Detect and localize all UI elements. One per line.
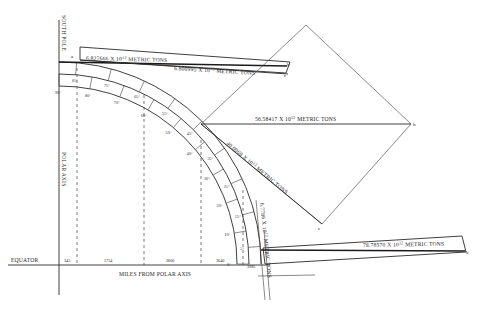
earth-forces-diagram: SOUTH POLE POLAR AXIS EQUATOR MILES FROM… — [0, 0, 480, 315]
latitude-radial-5 — [248, 246, 260, 247]
latitude-label-85: 85° — [72, 78, 78, 83]
latitude-radial-70 — [120, 86, 124, 97]
latitude-labels: 85°75°65°55°45°35°25°15°5°90°80°70°60°50… — [55, 78, 244, 267]
latitude-radial-45 — [193, 121, 201, 129]
latitude-radial-80 — [90, 77, 92, 89]
latitude-radial-10 — [234, 231, 246, 233]
latitude-radial-20 — [226, 199, 237, 203]
latitude-label-90: 90° — [55, 90, 61, 95]
latitude-label-5: 5° — [240, 246, 244, 251]
polar-axis-label: POLAR AXIS — [61, 152, 67, 186]
force-line-f6 — [261, 250, 465, 251]
latitude-radial-50 — [173, 119, 181, 128]
latitude-label-80: 80° — [85, 93, 91, 98]
latitude-radial-35 — [215, 148, 225, 155]
point-label-b-bottom: b — [466, 250, 469, 255]
point-label-c-mid: c — [318, 226, 321, 231]
equator-label: EQUATOR — [11, 257, 38, 263]
force-label-f4: 40.0068 X 1012 METRIC TONS — [225, 139, 290, 195]
south-pole-label: SOUTH POLE — [61, 15, 67, 51]
latitude-label-20: 20° — [217, 203, 223, 208]
latitude-label-10: 10° — [224, 232, 230, 237]
latitude-label-45: 45° — [187, 131, 193, 136]
latitude-label-55: 55° — [162, 111, 168, 116]
latitude-label-70: 70° — [114, 100, 120, 105]
equator-extension-line — [258, 275, 315, 276]
point-label-b-mid: b — [413, 122, 416, 127]
latitude-label-50: 50° — [166, 130, 172, 135]
latitude-label-25: 25° — [224, 184, 230, 189]
inner-arc — [59, 86, 237, 264]
latitude-radial-55 — [168, 99, 175, 109]
latitude-radial-40 — [195, 142, 204, 150]
latitude-radial-60 — [148, 100, 154, 110]
latitude-radial-65 — [139, 81, 144, 92]
miles-tick-345: 345 — [64, 258, 70, 263]
miles-axis-label: MILES FROM POLAR AXIS — [119, 271, 191, 277]
latitude-label-40: 40° — [187, 151, 193, 156]
force-label-f3: 56.58417 X 1012 METRIC TONS — [255, 115, 336, 122]
latitude-radial-75 — [108, 69, 111, 81]
middle-arc — [59, 74, 249, 264]
force-parallelogram — [201, 25, 411, 224]
point-label-a-top: a — [71, 54, 74, 59]
latitude-label-65: 65° — [134, 94, 140, 99]
latitude-label-35: 35° — [208, 156, 214, 161]
latitude-radial-25 — [231, 179, 242, 184]
force-label-f5: 6.7786 X 1012 METRIC TONS — [259, 202, 274, 278]
latitude-radial-30 — [213, 169, 223, 175]
latitude-label-75: 75° — [104, 83, 110, 88]
latitude-label-15: 15° — [235, 214, 241, 219]
force-label-f6: 78.78570 X 1012 METRIC TONS — [363, 240, 445, 248]
miles-tick-3640: 3640 — [216, 258, 224, 263]
latitude-label-0: 0° — [227, 262, 231, 267]
latitude-radial-85 — [76, 63, 77, 75]
miles-tick-3985: 3985 — [247, 264, 255, 269]
latitude-label-30: 30° — [204, 176, 210, 181]
miles-tick-1754: 1754 — [104, 258, 113, 263]
force-line-f1 — [59, 62, 287, 66]
miles-tick-2660: 2660 — [166, 258, 174, 263]
latitude-radial-15 — [243, 212, 255, 215]
